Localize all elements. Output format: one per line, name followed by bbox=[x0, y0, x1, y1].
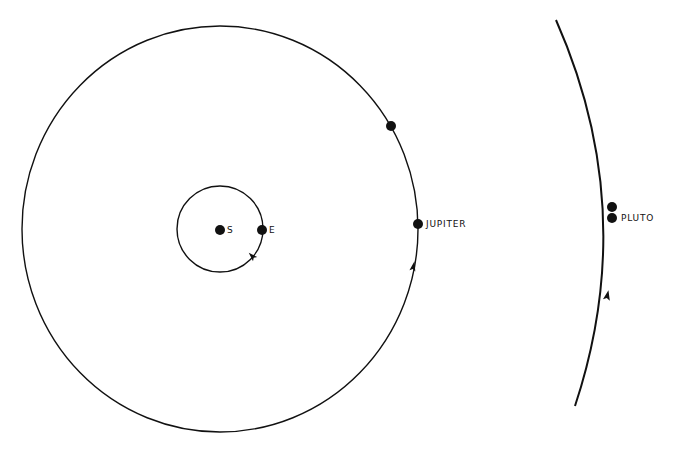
jupiter-label: JUPITER bbox=[426, 219, 466, 229]
pluto-dot bbox=[607, 213, 617, 223]
orbit-diagram bbox=[0, 0, 679, 449]
pluto-direction-arrow-icon bbox=[603, 289, 612, 300]
pluto-label: PLUTO bbox=[621, 213, 654, 223]
earth-label: E bbox=[269, 225, 276, 235]
earth-dot bbox=[257, 225, 267, 235]
sun-dot bbox=[215, 225, 225, 235]
jupiter-earlier-dot bbox=[386, 121, 396, 131]
jupiter-dot bbox=[413, 219, 423, 229]
sun-label: S bbox=[227, 225, 234, 235]
pluto-orbit-arc bbox=[556, 20, 603, 406]
pluto-earlier-dot bbox=[607, 202, 617, 212]
